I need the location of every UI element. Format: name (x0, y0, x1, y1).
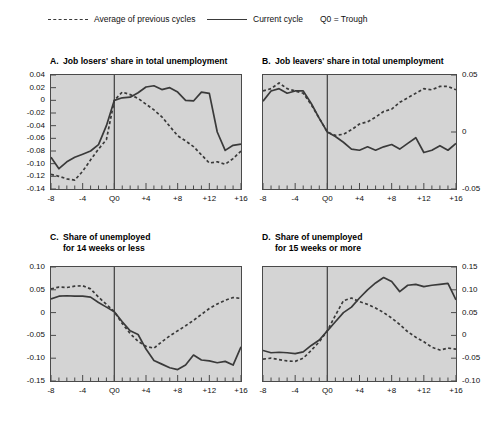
panel-a-letter: A. (50, 56, 63, 67)
panel-a-title-text: Job losers' share in total unemployment (63, 56, 227, 66)
panel-a-title: A.Job losers' share in total unemploymen… (50, 56, 227, 67)
x-tick-label: -8 (249, 195, 277, 203)
x-tick-label: +4 (132, 387, 160, 395)
y-tick-label: 0.05 (462, 309, 502, 317)
y-tick-label: 0 (462, 128, 502, 136)
panel-b-plot-area (262, 74, 457, 190)
x-tick-label: +16 (442, 195, 470, 203)
legend-item-current-cycle: Current cycle (207, 14, 303, 24)
y-tick-label: 0.15 (462, 263, 502, 271)
legend-item-q0-trough: Q0 = Trough (320, 14, 368, 24)
y-tick-label: 0.04 (8, 71, 45, 79)
panel-c-title: C.Share of unemployedfor 14 weeks or les… (50, 232, 150, 253)
panel-b-letter: B. (262, 56, 275, 67)
y-tick-label: -0.10 (462, 377, 502, 385)
x-tick-label: +8 (164, 387, 192, 395)
legend-label-average: Average of previous cycles (94, 14, 195, 24)
y-tick-label: 0.02 (8, 84, 45, 92)
y-tick-label: 0 (462, 331, 502, 339)
panel-a: A.Job losers' share in total unemploymen… (50, 56, 227, 67)
panel-c: C.Share of unemployedfor 14 weeks or les… (50, 232, 150, 253)
panel-d-plot-area (262, 266, 457, 382)
chart-legend: Average of previous cycles Current cycle… (0, 14, 503, 36)
y-tick-label: 0.05 (462, 71, 502, 79)
y-tick-label: -0.05 (462, 185, 502, 193)
x-tick-label: +16 (442, 387, 470, 395)
x-tick-label: +8 (378, 387, 406, 395)
x-tick-label: Q0 (100, 387, 128, 395)
x-tick-label: Q0 (313, 195, 341, 203)
y-tick-label: -0.15 (8, 377, 45, 385)
x-tick-label: +12 (410, 387, 438, 395)
panel-c-plot-area (50, 266, 242, 382)
x-tick-label: +12 (410, 195, 438, 203)
panel-d-title: D.Share of unemployedfor 15 weeks or mor… (262, 232, 362, 253)
panel-c-title-line1: Share of unemployed (63, 232, 150, 242)
x-tick-label: Q0 (100, 195, 128, 203)
x-tick-label: +12 (195, 195, 223, 203)
legend-item-average-previous-cycles: Average of previous cycles (48, 14, 195, 24)
x-tick-label: -8 (37, 387, 65, 395)
x-tick-label: -8 (37, 195, 65, 203)
y-tick-label: -0.10 (8, 160, 45, 168)
x-tick-label: +4 (346, 195, 374, 203)
panel-d-letter: D. (262, 232, 275, 243)
y-tick-label: 0.10 (8, 263, 45, 271)
y-tick-label: -0.02 (8, 109, 45, 117)
x-tick-label: +8 (378, 195, 406, 203)
x-tick-label: -4 (281, 195, 309, 203)
panel-a-plot-area (50, 74, 242, 190)
legend-label-current: Current cycle (253, 14, 303, 24)
y-tick-label: -0.14 (8, 185, 45, 193)
x-tick-label: -8 (249, 387, 277, 395)
y-tick-label: 0.10 (462, 286, 502, 294)
panel-d: D.Share of unemployedfor 15 weeks or mor… (262, 232, 362, 253)
panel-d-title-line2: for 15 weeks or more (275, 243, 361, 253)
panel-b: B.Job leavers' share in total unemployme… (262, 56, 444, 67)
y-tick-label: -0.05 (8, 331, 45, 339)
panel-b-title: B.Job leavers' share in total unemployme… (262, 56, 444, 67)
panel-c-title-line2: for 14 weeks or less (63, 243, 145, 253)
x-tick-label: -4 (69, 195, 97, 203)
x-tick-label: -4 (69, 387, 97, 395)
panel-b-title-text: Job leavers' share in total unemployment (275, 56, 444, 66)
y-tick-label: -0.10 (8, 354, 45, 362)
panel-c-letter: C. (50, 232, 63, 243)
dashed-line-swatch-icon (48, 19, 88, 20)
y-tick-label: -0.12 (8, 172, 45, 180)
solid-line-swatch-icon (207, 19, 247, 20)
x-tick-label: +4 (132, 195, 160, 203)
y-tick-label: -0.08 (8, 147, 45, 155)
panel-d-title-line1: Share of unemployed (275, 232, 362, 242)
x-tick-label: +4 (346, 387, 374, 395)
y-tick-label: -0.05 (462, 354, 502, 362)
y-tick-label: -0.06 (8, 134, 45, 142)
y-tick-label: 0 (8, 96, 45, 104)
y-tick-label: 0.05 (8, 286, 45, 294)
x-tick-label: +12 (195, 387, 223, 395)
legend-label-q0-trough: Q0 = Trough (320, 14, 368, 24)
y-tick-label: -0.04 (8, 122, 45, 130)
x-tick-label: +8 (164, 195, 192, 203)
x-tick-label: -4 (281, 387, 309, 395)
y-tick-label: 0 (8, 309, 45, 317)
x-tick-label: Q0 (313, 387, 341, 395)
